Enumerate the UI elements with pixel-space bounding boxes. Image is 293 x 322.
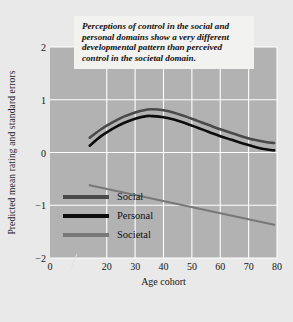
x-tick-label: 40 — [159, 261, 169, 272]
x-tick-label: 0 — [48, 261, 53, 272]
x-tick-label: 50 — [187, 261, 197, 272]
chart-figure: Predicted mean rating and standard error… — [0, 0, 293, 322]
y-tick-label: 1 — [41, 94, 46, 105]
legend-swatch-social — [63, 195, 109, 199]
x-tick-label: 70 — [244, 261, 254, 272]
y-axis-title: Predicted mean rating and standard error… — [6, 47, 22, 258]
legend-label: Societal — [117, 229, 151, 240]
legend-label: Personal — [117, 210, 153, 221]
legend-swatch-societal — [63, 233, 109, 237]
y-tick-label: −1 — [35, 200, 46, 211]
legend-item-social: Social — [63, 187, 153, 206]
annotation-callout: Perceptions of control in the social and… — [74, 16, 254, 69]
y-tick-label: 0 — [41, 147, 46, 158]
x-tick-label: 80 — [272, 261, 282, 272]
y-tick-label: −2 — [35, 253, 46, 264]
x-axis-title: Age cohort — [50, 276, 277, 287]
legend-swatch-personal — [63, 214, 109, 218]
x-tick-label: 30 — [130, 261, 140, 272]
x-tick-label: 20 — [102, 261, 112, 272]
chart-legend: SocialPersonalSocietal — [63, 187, 153, 244]
legend-item-societal: Societal — [63, 225, 153, 244]
legend-item-personal: Personal — [63, 206, 153, 225]
x-tick-label: 60 — [215, 261, 225, 272]
plot-area: Predicted mean rating and standard error… — [50, 47, 277, 258]
y-tick-label: 2 — [41, 42, 46, 53]
legend-label: Social — [117, 191, 143, 202]
